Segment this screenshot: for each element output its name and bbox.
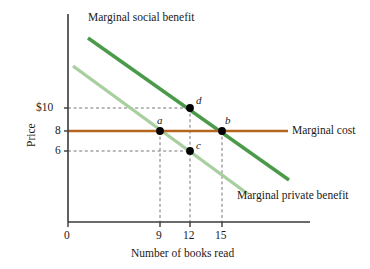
x-axis-title: Number of books read bbox=[131, 248, 234, 260]
y-tick-label-10: $10 bbox=[36, 102, 53, 114]
y-axis-title: Price bbox=[26, 123, 38, 147]
chart-figure: Marginal social benefit Marginal private… bbox=[0, 0, 370, 269]
x-tick-label-15: 15 bbox=[215, 230, 227, 242]
point-label-c: c bbox=[196, 140, 201, 151]
data-point-b bbox=[218, 127, 226, 135]
mpb-curve-label: Marginal private benefit bbox=[237, 190, 349, 202]
data-point-d bbox=[186, 104, 194, 112]
guide-lines bbox=[68, 108, 222, 222]
point-label-a: a bbox=[157, 115, 163, 126]
data-point-a bbox=[156, 127, 164, 135]
point-label-b: b bbox=[225, 115, 231, 126]
y-tick-label-6: 6 bbox=[55, 145, 61, 157]
data-point-c bbox=[186, 147, 194, 155]
mc-curve-label: Marginal cost bbox=[292, 125, 355, 137]
point-label-d: d bbox=[196, 95, 202, 106]
x-tick-label-12: 12 bbox=[183, 230, 195, 242]
x-tick-label-9: 9 bbox=[156, 230, 162, 242]
msb-curve-label: Marginal social benefit bbox=[88, 12, 194, 24]
y-tick-label-8: 8 bbox=[55, 125, 61, 137]
x-tick-label-0: 0 bbox=[64, 230, 70, 242]
